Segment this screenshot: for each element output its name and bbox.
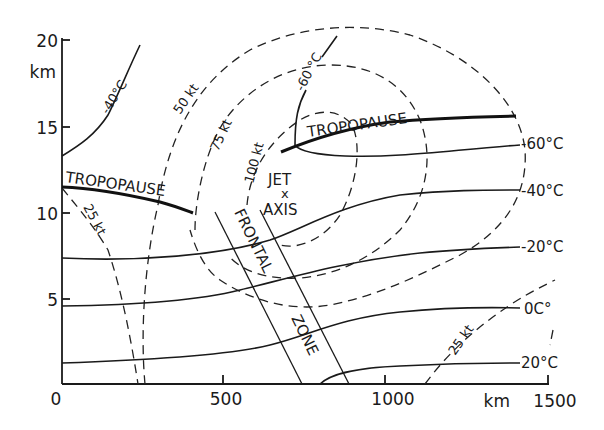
isotherm-label-right-0: 0C°	[524, 300, 552, 318]
y-axis-unit: km	[30, 62, 56, 82]
tropopause-label-left: TROPOPAUSE	[63, 168, 166, 200]
tropopause-label-right: TROPOPAUSE	[305, 109, 408, 141]
y-tick-5: 5	[47, 290, 58, 310]
isotach-label-25kt-left: 25 kt	[80, 201, 109, 237]
isotherm-label-right-minus20: -20°C	[521, 238, 563, 256]
x-tick-0: 0	[51, 389, 62, 409]
isotach-label-25kt-right: 25 kt	[445, 322, 476, 358]
x-tick-500: 500	[210, 389, 242, 409]
x-tick-1000: 1000	[371, 389, 414, 409]
isotherm-label-right-minus60: -60°C	[521, 135, 563, 153]
zone-label: ZONE	[287, 312, 322, 358]
isotherm-label-upper-center: -60 °C	[292, 50, 324, 93]
x-tick-1500: 1500	[533, 391, 576, 411]
x-axis-unit: km	[484, 391, 510, 411]
cross-section-diagram: 20 km 15 10 5 0 500 1000 km 1500	[0, 0, 604, 430]
isotach-label-75kt: 75 kt	[207, 117, 235, 154]
y-tick-10: 10	[36, 204, 58, 224]
tropopause-lines	[62, 116, 516, 213]
y-tick-20: 20	[36, 31, 58, 51]
isotherm-label-right-minus40: -40°C	[521, 182, 563, 200]
axis-label: AXIS	[263, 201, 297, 219]
isotherm-label-right-20: 20°C	[521, 354, 558, 372]
y-tick-15: 15	[36, 118, 58, 138]
jet-axis-marker: x	[281, 186, 289, 201]
isotach-label-100kt: 100 kt	[241, 141, 266, 185]
isotherm-label-upper-left: -40°C	[98, 77, 130, 116]
